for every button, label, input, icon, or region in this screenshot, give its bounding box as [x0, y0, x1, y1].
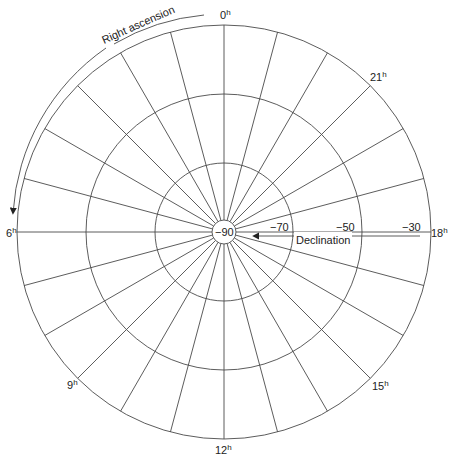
hour-line-13h [227, 244, 277, 432]
declination-label: Declination [296, 234, 350, 246]
polar-star-chart: Right ascension Declination −90 −70 −50 … [0, 0, 451, 462]
hour-label-6h: 6h [6, 226, 17, 239]
hour-label-0h: 0h [220, 8, 231, 21]
hour-line-15h [232, 240, 370, 378]
hour-label-9h: 9h [67, 378, 78, 391]
dec-tick-minus-50: −50 [336, 221, 355, 233]
hour-line-1h [170, 32, 220, 220]
hour-line-8h [45, 238, 214, 336]
hour-line-11h [170, 244, 220, 432]
dec-tick-minus-90: −90 [215, 226, 234, 238]
hour-line-5h [24, 178, 212, 228]
hour-line-19h [236, 178, 424, 228]
hour-line-9h [78, 240, 216, 378]
dec-tick-minus-70: −70 [270, 221, 289, 233]
hour-line-22h [230, 53, 328, 222]
hour-line-23h [227, 32, 277, 220]
hour-line-7h [24, 235, 212, 285]
hour-line-21h [232, 86, 370, 224]
hour-label-21h: 21h [370, 70, 387, 83]
hour-line-16h [234, 238, 403, 336]
hour-line-4h [45, 129, 214, 227]
hour-label-18h: 18h [431, 226, 448, 239]
ra-label: Right ascension [100, 3, 176, 46]
hour-line-3h [78, 86, 216, 224]
hour-label-15h: 15h [372, 379, 389, 392]
hour-line-20h [234, 129, 403, 227]
hour-label-12h: 12h [215, 443, 232, 456]
hour-line-14h [230, 242, 328, 411]
dec-tick-minus-30: −30 [402, 221, 421, 233]
hour-line-10h [121, 242, 219, 411]
hour-line-2h [121, 53, 219, 222]
